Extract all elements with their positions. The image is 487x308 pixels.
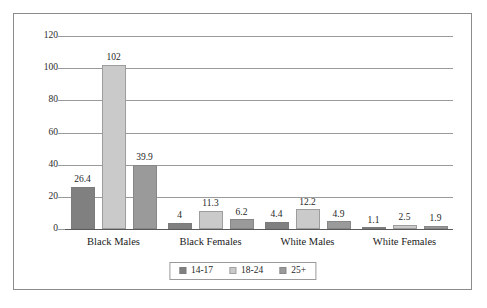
legend-item[interactable]: 18-24 (229, 266, 263, 276)
bar-slot: 12.2 (296, 36, 320, 229)
bar-slot: 11.3 (199, 36, 223, 229)
bar-slot: 4.9 (327, 36, 351, 229)
bar-group-bars: 4.412.24.9 (259, 36, 356, 229)
bar-slot: 39.9 (133, 36, 157, 229)
legend-label: 14-17 (191, 266, 213, 276)
bar[interactable] (393, 225, 417, 229)
bar-group: 26.410239.9Black Males (65, 36, 162, 229)
y-axis-tick (58, 197, 65, 198)
y-axis-tick-label: 0 (53, 224, 58, 234)
plot-area: 020406080100120 26.410239.9Black Males41… (65, 36, 453, 229)
bar[interactable] (71, 187, 95, 229)
bar-value-label: 102 (106, 53, 120, 63)
bar-group: 411.36.2Black Females (162, 36, 259, 229)
bar-group-bars: 1.12.51.9 (356, 36, 453, 229)
bar-slot: 4.4 (265, 36, 289, 229)
bar-value-label: 1.1 (368, 216, 380, 226)
bar-group: 4.412.24.9White Males (259, 36, 356, 229)
bar-value-label: 4.9 (333, 210, 345, 220)
bar[interactable] (230, 219, 254, 229)
legend-label: 25+ (291, 266, 306, 276)
bar-value-label: 12.2 (299, 198, 316, 208)
bar-value-label: 4 (177, 211, 182, 221)
y-axis-tick-label: 60 (49, 128, 59, 138)
bar-slot: 2.5 (393, 36, 417, 229)
x-axis-category-label: Black Males (65, 237, 162, 248)
y-axis-tick (58, 100, 65, 101)
y-axis-tick-label: 40 (49, 160, 59, 170)
bar-group-bars: 411.36.2 (162, 36, 259, 229)
legend-item[interactable]: 25+ (279, 266, 306, 276)
bar-value-label: 1.9 (430, 214, 442, 224)
y-axis-tick-label: 120 (44, 31, 58, 41)
x-axis-category-label: White Males (259, 237, 356, 248)
legend-swatch-icon (229, 267, 236, 274)
y-axis-tick (58, 68, 65, 69)
y-axis-tick (58, 133, 65, 134)
bar-slot: 6.2 (230, 36, 254, 229)
bar-group: 1.12.51.9White Females (356, 36, 453, 229)
bar[interactable] (168, 223, 192, 229)
legend-swatch-icon (279, 267, 286, 274)
bar-group-bars: 26.410239.9 (65, 36, 162, 229)
bar-groups: 26.410239.9Black Males411.36.2Black Fema… (65, 36, 453, 229)
legend-label: 18-24 (241, 266, 263, 276)
bar-slot: 4 (168, 36, 192, 229)
x-axis-category-label: Black Females (162, 237, 259, 248)
bar-value-label: 11.3 (202, 199, 218, 209)
bar-value-label: 6.2 (236, 208, 248, 218)
bar[interactable] (362, 227, 386, 229)
y-axis-tick (58, 36, 65, 37)
bar-value-label: 26.4 (74, 175, 91, 185)
bar-slot: 1.9 (424, 36, 448, 229)
bar-slot: 1.1 (362, 36, 386, 229)
bar[interactable] (265, 222, 289, 229)
bar[interactable] (424, 226, 448, 229)
bar[interactable] (199, 211, 223, 229)
chart-legend: 14-1718-2425+ (169, 262, 316, 280)
bar[interactable] (327, 221, 351, 229)
y-axis-tick-label: 80 (49, 96, 59, 106)
bar-slot: 102 (102, 36, 126, 229)
y-axis-tick (58, 165, 65, 166)
legend-item[interactable]: 14-17 (179, 266, 213, 276)
x-axis-category-label: White Females (356, 237, 453, 248)
bar[interactable] (296, 209, 320, 229)
y-axis-tick-label: 100 (44, 63, 58, 73)
chart-figure: 020406080100120 26.410239.9Black Males41… (13, 13, 472, 290)
axis-baseline (65, 229, 453, 230)
bar[interactable] (102, 65, 126, 229)
legend-swatch-icon (179, 267, 186, 274)
y-axis-tick-label: 20 (49, 192, 59, 202)
bar-value-label: 2.5 (399, 213, 411, 223)
bar[interactable] (133, 165, 157, 229)
bar-value-label: 39.9 (136, 153, 153, 163)
y-axis-tick (58, 229, 65, 230)
bar-value-label: 4.4 (271, 210, 283, 220)
bar-slot: 26.4 (71, 36, 95, 229)
